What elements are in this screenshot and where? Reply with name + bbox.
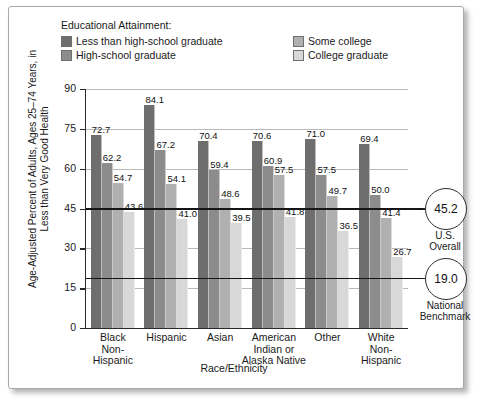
bar [316,175,327,328]
bar-value-label: 84.1 [145,94,164,105]
legend-row-2: High-school graduate College graduate [61,49,453,61]
bar [381,218,392,328]
bar-value-label: 50.0 [371,184,390,195]
legend-item-some-college: Some college [293,35,372,47]
reference-caption-line: National [416,300,474,312]
legend-row-1: Less than high-school graduate Some coll… [61,35,453,47]
bar [305,139,316,328]
bar [91,135,102,328]
reference-caption-line: Overall [416,241,474,253]
reference-caption: NationalBenchmark [416,300,474,323]
bar [155,150,166,328]
y-axis-title: Age-Adjusted Percent of Adults, Ages 25–… [27,44,51,294]
bar [327,196,338,328]
plot-area: 0153045607590BlackNon-Hispanic72.762.254… [85,89,408,329]
reference-caption-line: Benchmark [416,311,474,323]
bar [209,170,220,328]
bar [252,141,263,328]
reference-line [86,278,426,280]
bar-value-label: 57.5 [275,164,294,175]
legend-swatch-some-college [293,36,304,47]
bar-value-label: 71.0 [306,128,325,139]
bar [220,199,231,328]
bar-value-label: 67.2 [156,139,175,150]
y-axis-tick-label: 75 [50,122,76,134]
bar-value-label: 49.7 [328,185,347,196]
bar [274,175,285,328]
chart-figure: Educational Attainment: Less than high-s… [8,6,464,389]
legend-swatch-high-school [61,50,72,61]
bar-value-label: 26.7 [393,246,412,257]
bar-value-label: 70.4 [199,130,218,141]
legend-item-high-school: High-school graduate [61,49,293,61]
bar [177,219,188,328]
y-axis-tick-label: 90 [50,82,76,94]
y-axis-tick [80,328,86,329]
x-axis-title: Race/Ethnicity [69,362,399,374]
reference-caption: U.S.Overall [416,230,474,253]
bar-value-label: 70.6 [253,130,272,141]
reference-caption-line: U.S. [416,230,474,242]
bar [198,141,209,328]
y-axis-tick-label: 45 [50,202,76,214]
bar-value-label: 54.7 [114,172,133,183]
legend-title: Educational Attainment: [61,19,453,31]
bar-value-label: 59.4 [210,159,229,170]
bar [263,166,274,328]
legend-swatch-less-than-high-school [61,36,72,47]
reference-value-callout: 19.0 [425,258,467,300]
bar [102,163,113,328]
reference-value-callout: 45.2 [425,188,467,230]
legend-swatch-college-graduate [293,50,304,61]
legend-label-some-college: Some college [308,35,372,47]
y-axis-tick-label: 15 [50,281,76,293]
y-axis-tick-label: 30 [50,241,76,253]
bar-value-label: 62.2 [103,152,122,163]
legend-label-less-than-high-school: Less than high-school graduate [76,35,223,47]
bar [370,195,381,328]
bar-value-label: 72.7 [92,124,111,135]
bar [144,105,155,328]
bar [113,183,124,328]
bar-value-label: 57.5 [317,164,336,175]
legend-label-college-graduate: College graduate [308,49,388,61]
reference-line [86,208,426,210]
bar-value-label: 54.1 [167,173,186,184]
bar [359,144,370,328]
bar [124,212,135,328]
bar [166,184,177,328]
bar [231,223,242,328]
bar-value-label: 69.4 [360,133,379,144]
x-axis-category-line: White [348,332,414,344]
legend-item-less-than-high-school: Less than high-school graduate [61,35,293,47]
bar [285,217,296,328]
y-axis-tick-label: 60 [50,162,76,174]
legend-item-college-graduate: College graduate [293,49,388,61]
y-axis-tick-label: 0 [50,321,76,333]
chart-legend: Educational Attainment: Less than high-s… [61,19,453,63]
bar [338,231,349,328]
bar [392,257,403,328]
bar-value-label: 48.6 [221,188,240,199]
legend-label-high-school: High-school graduate [76,49,176,61]
